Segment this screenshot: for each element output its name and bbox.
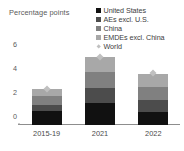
- legend-item-label: United States: [104, 6, 147, 15]
- y-axis-tick-label: 0: [13, 113, 17, 121]
- legend-swatch-icon: [96, 35, 101, 40]
- legend-swatch-icon: [96, 17, 101, 22]
- legend-item-label: AEs excl. U.S.: [104, 15, 149, 24]
- bar-segment: [32, 96, 62, 104]
- legend-item-label: China: [104, 24, 123, 33]
- y-axis-title-line1: Percentage points: [9, 8, 69, 17]
- bar-segment: [138, 100, 168, 112]
- stacked-bar-chart: Percentage points United StatesAEs excl.…: [0, 0, 184, 151]
- bar-segment: [85, 88, 115, 104]
- legend-item-label: EMDEs excl. China: [104, 33, 165, 42]
- legend-item-china[interactable]: China: [96, 24, 184, 33]
- legend-item-aes-excl-u-s[interactable]: AEs excl. U.S.: [96, 15, 184, 24]
- bar-segment: [32, 111, 62, 125]
- legend-item-united-states[interactable]: United States: [96, 6, 184, 15]
- y-axis-title: Percentage points: [9, 8, 75, 17]
- bar-segment: [85, 72, 115, 88]
- plot-area: 02462015-1920212022: [20, 46, 180, 125]
- bar-segment: [138, 112, 168, 125]
- bar-2022[interactable]: [138, 74, 168, 125]
- bar-segment: [85, 103, 115, 125]
- x-axis-tick-label: 2021: [92, 129, 108, 138]
- legend-item-emdes-excl-china[interactable]: EMDEs excl. China: [96, 33, 184, 42]
- y-axis-tick-label: 6: [13, 41, 17, 49]
- bar-segment: [138, 87, 168, 100]
- y-axis-tick-label: 2: [13, 89, 17, 97]
- bar-2015-19[interactable]: [32, 89, 62, 125]
- x-axis-tick-label: 2015-19: [33, 129, 60, 138]
- bar-2021[interactable]: [85, 57, 115, 125]
- y-axis-tickmark: [18, 124, 21, 125]
- y-axis-tick-label: 4: [13, 65, 17, 73]
- chart-legend: United StatesAEs excl. U.S.ChinaEMDEs ex…: [96, 6, 184, 51]
- x-axis-tick-label: 2022: [145, 129, 161, 138]
- legend-swatch-icon: [96, 26, 101, 31]
- legend-swatch-icon: [96, 8, 101, 13]
